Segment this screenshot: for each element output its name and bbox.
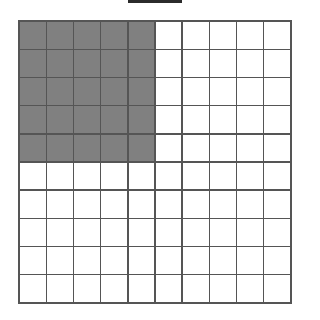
grid-cell[interactable] [74,50,100,77]
grid-cell[interactable] [237,247,263,274]
grid-cell[interactable] [47,219,73,246]
grid-cell[interactable] [20,106,46,133]
grid-cell[interactable] [183,135,209,162]
grid-cell[interactable] [129,191,155,218]
grid-cell[interactable] [237,191,263,218]
grid-cell[interactable] [129,78,155,105]
grid-cell[interactable] [237,50,263,77]
grid-cell[interactable] [101,50,127,77]
grid-cell[interactable] [156,247,182,274]
grid-cell[interactable] [101,106,127,133]
grid-cell[interactable] [101,22,127,49]
grid-cell[interactable] [101,247,127,274]
grid-cell[interactable] [237,275,263,302]
grid-cell[interactable] [20,219,46,246]
grid-cell[interactable] [156,191,182,218]
grid-cell[interactable] [101,219,127,246]
grid-cell[interactable] [210,50,236,77]
grid-cell[interactable] [183,50,209,77]
grid-cell[interactable] [183,191,209,218]
grid-cell[interactable] [156,106,182,133]
grid-cell[interactable] [47,78,73,105]
grid-cell[interactable] [74,106,100,133]
grid-cell[interactable] [183,163,209,190]
grid-cell[interactable] [20,191,46,218]
grid-cell[interactable] [74,78,100,105]
grid-cell[interactable] [156,163,182,190]
grid-cell[interactable] [210,247,236,274]
grid-cell[interactable] [156,135,182,162]
grid-cell[interactable] [47,247,73,274]
grid-cell[interactable] [74,163,100,190]
grid-cell[interactable] [129,163,155,190]
grid-cell[interactable] [74,219,100,246]
grid-cell[interactable] [47,135,73,162]
grid-cell[interactable] [20,247,46,274]
grid-cell[interactable] [47,191,73,218]
grid-cell[interactable] [183,78,209,105]
grid-cell[interactable] [210,22,236,49]
grid-cell[interactable] [237,106,263,133]
grid-cell[interactable] [183,106,209,133]
grid-cell[interactable] [264,50,290,77]
grid-cell[interactable] [183,219,209,246]
grid-cell[interactable] [210,135,236,162]
grid-cell[interactable] [237,219,263,246]
grid-cell[interactable] [264,135,290,162]
grid-cell[interactable] [210,163,236,190]
grid-cell[interactable] [74,22,100,49]
grid-cell[interactable] [210,78,236,105]
grid-cell[interactable] [74,135,100,162]
grid-cell[interactable] [101,135,127,162]
grid-cell[interactable] [20,50,46,77]
grid-cell[interactable] [47,163,73,190]
grid-cell[interactable] [47,106,73,133]
grid-cell[interactable] [129,22,155,49]
grid-cell[interactable] [156,219,182,246]
grid-cell[interactable] [47,275,73,302]
grid-cell[interactable] [264,163,290,190]
grid-cell[interactable] [20,163,46,190]
grid-cell[interactable] [210,219,236,246]
grid-cell[interactable] [156,22,182,49]
grid-cell[interactable] [210,275,236,302]
grid-cell[interactable] [210,191,236,218]
grid-cell[interactable] [237,135,263,162]
grid-cell[interactable] [20,22,46,49]
grid-cell[interactable] [101,191,127,218]
grid-cell[interactable] [20,135,46,162]
grid-cell[interactable] [20,275,46,302]
grid-cell[interactable] [129,106,155,133]
grid-cell[interactable] [74,247,100,274]
grid-cell[interactable] [264,219,290,246]
grid-cell[interactable] [129,219,155,246]
grid-cell[interactable] [264,106,290,133]
grid-cell[interactable] [264,78,290,105]
grid-cell[interactable] [156,275,182,302]
grid-cell[interactable] [74,275,100,302]
grid-cell[interactable] [183,22,209,49]
grid-cell[interactable] [156,50,182,77]
grid-cell[interactable] [101,78,127,105]
grid-cell[interactable] [129,50,155,77]
grid-cell[interactable] [264,191,290,218]
grid-cell[interactable] [129,135,155,162]
grid-cell[interactable] [237,22,263,49]
grid-cell[interactable] [47,50,73,77]
grid-cell[interactable] [237,78,263,105]
grid-cell[interactable] [183,275,209,302]
grid-cell[interactable] [101,163,127,190]
grid-cell[interactable] [264,275,290,302]
grid-cell[interactable] [183,247,209,274]
grid-cell[interactable] [264,22,290,49]
grid-cell[interactable] [74,191,100,218]
grid-cell[interactable] [129,275,155,302]
grid-cell[interactable] [210,106,236,133]
grid-cell[interactable] [101,275,127,302]
grid-cell[interactable] [47,22,73,49]
grid-cell[interactable] [129,247,155,274]
grid-cell[interactable] [156,78,182,105]
grid-cell[interactable] [237,163,263,190]
grid-cell[interactable] [20,78,46,105]
grid-cell[interactable] [264,247,290,274]
